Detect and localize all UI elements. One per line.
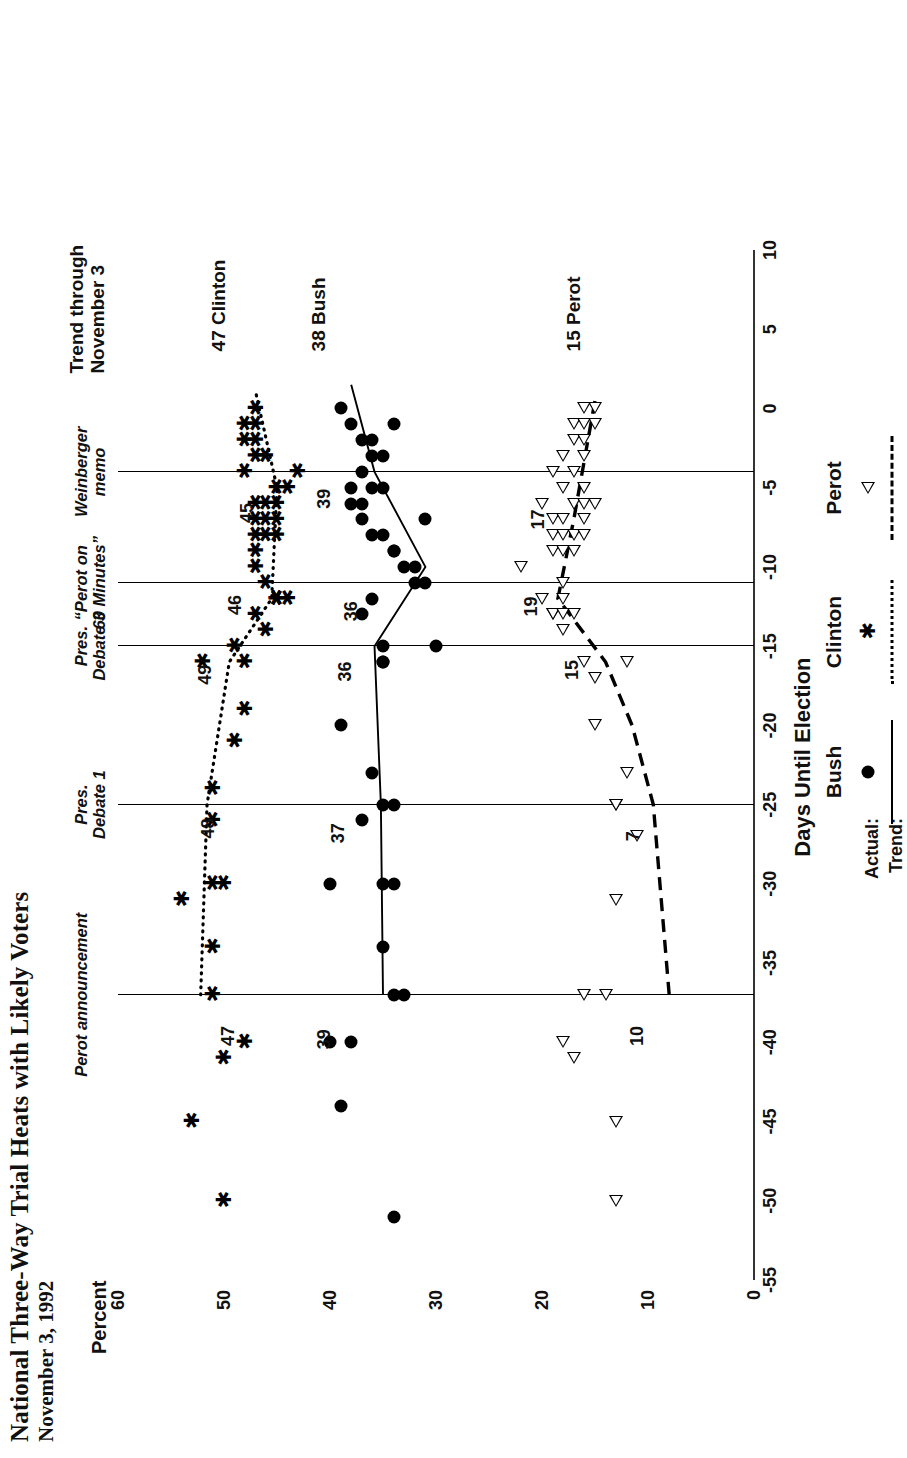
x-tick-7: -20	[760, 712, 781, 738]
data-point-bush	[355, 497, 368, 510]
value-annotation-5: 37	[328, 823, 349, 843]
data-point-bush	[377, 941, 390, 954]
legend-open-triangle-icon	[861, 482, 875, 494]
data-point-bush	[377, 656, 390, 669]
data-point-clinton: ✱	[248, 544, 263, 559]
data-point-bush	[345, 418, 358, 431]
data-point-perot	[620, 656, 634, 668]
data-point-clinton: ✱	[259, 575, 274, 590]
data-point-perot	[567, 545, 581, 557]
data-point-clinton: ✱	[206, 987, 221, 1002]
data-point-perot	[556, 593, 570, 605]
x-tick-11: 0	[760, 403, 781, 413]
data-point-clinton: ✱	[270, 496, 285, 511]
data-point-perot	[609, 799, 623, 811]
data-point-perot	[556, 450, 570, 462]
data-point-perot	[609, 1195, 623, 1207]
data-point-perot	[577, 434, 591, 446]
legend: Actual: Trend: BushClinton✱Perot	[822, 348, 900, 818]
data-point-clinton: ✱	[270, 480, 285, 495]
plot-area: ✱✱✱✱✱✱✱✱✱✱✱✱✱✱✱✱✱✱✱✱✱✱✱✱✱✱✱✱✱✱✱✱✱✱✱✱✱✱✱✱…	[118, 250, 754, 1280]
value-annotation-10: 7	[623, 831, 644, 841]
data-point-bush	[366, 592, 379, 605]
data-point-clinton: ✱	[238, 655, 253, 670]
data-point-clinton: ✱	[270, 528, 285, 543]
data-point-bush	[345, 1036, 358, 1049]
x-tick-4: -35	[760, 950, 781, 976]
data-point-perot	[588, 498, 602, 510]
data-point-bush	[355, 465, 368, 478]
data-point-bush	[387, 877, 400, 890]
data-point-bush	[408, 576, 421, 589]
legend-row-trend-label: Trend:	[886, 818, 907, 904]
data-point-bush	[334, 402, 347, 415]
value-annotation-11: 10	[627, 1026, 648, 1046]
data-point-clinton: ✱	[206, 940, 221, 955]
value-annotation-14: 17	[527, 509, 548, 529]
data-point-bush	[366, 529, 379, 542]
legend-label-clinton: Clinton	[822, 596, 846, 668]
data-point-perot	[556, 577, 570, 589]
data-point-clinton: ✱	[217, 1051, 232, 1066]
value-annotation-1: 49	[194, 665, 215, 685]
y-tick-5: 50	[214, 1290, 235, 1310]
data-point-perot	[620, 767, 634, 779]
data-point-perot	[567, 608, 581, 620]
event-line-1	[118, 804, 754, 805]
data-point-clinton: ✱	[248, 607, 263, 622]
y-tick-3: 30	[426, 1290, 447, 1310]
data-point-clinton: ✱	[174, 892, 189, 907]
x-tick-6: -25	[760, 792, 781, 818]
data-point-clinton: ✱	[206, 781, 221, 796]
data-point-clinton: ✱	[227, 639, 242, 654]
data-point-clinton: ✱	[238, 417, 253, 432]
data-point-clinton: ✱	[238, 1035, 253, 1050]
data-point-perot	[577, 482, 591, 494]
data-point-bush	[377, 640, 390, 653]
data-point-perot	[556, 1036, 570, 1048]
data-point-bush	[366, 450, 379, 463]
data-point-perot	[556, 513, 570, 525]
event-label-3: “Perot on 60 Minutes”	[72, 536, 109, 630]
legend-label-bush: Bush	[822, 746, 846, 799]
data-point-clinton: ✱	[185, 1114, 200, 1129]
trend-caption: Trend through November 3	[66, 245, 109, 374]
x-tick-13: 10	[760, 240, 781, 260]
data-point-clinton: ✱	[291, 464, 306, 479]
event-label-0: Perot announcement	[72, 913, 90, 1077]
page-title: National Three-Way Trial Heats with Like…	[6, 892, 33, 1442]
data-point-bush	[355, 814, 368, 827]
data-point-bush	[377, 798, 390, 811]
data-point-clinton: ✱	[238, 702, 253, 717]
value-annotation-2: 46	[224, 595, 245, 615]
data-point-perot	[588, 672, 602, 684]
data-point-perot	[535, 498, 549, 510]
x-tick-9: -10	[760, 554, 781, 580]
data-point-bush	[334, 719, 347, 732]
figure: National Three-Way Trial Heats with Like…	[0, 0, 907, 1458]
data-point-perot	[567, 466, 581, 478]
legend-line-bush	[891, 720, 893, 824]
y-axis-title: Percent	[88, 1281, 111, 1354]
value-annotation-4: 47	[218, 1026, 239, 1046]
rotated-figure-canvas: National Three-Way Trial Heats with Like…	[0, 0, 907, 1458]
data-point-bush	[366, 766, 379, 779]
data-point-perot	[599, 989, 613, 1001]
data-point-clinton: ✱	[259, 449, 274, 464]
trend-lines	[118, 250, 754, 1280]
data-point-perot	[577, 989, 591, 1001]
data-point-clinton: ✱	[248, 401, 263, 416]
data-point-bush	[387, 418, 400, 431]
y-axis-ticks: 0102030405060	[118, 1284, 754, 1348]
x-tick-1: -50	[760, 1188, 781, 1214]
value-annotation-8: 39	[313, 489, 334, 509]
x-tick-12: 5	[760, 324, 781, 334]
data-point-bush	[345, 481, 358, 494]
data-point-bush	[387, 1210, 400, 1223]
value-annotation-0: 48	[198, 818, 219, 838]
data-point-bush	[334, 1099, 347, 1112]
data-point-bush	[398, 560, 411, 573]
data-point-clinton: ✱	[238, 433, 253, 448]
x-tick-8: -15	[760, 633, 781, 659]
data-point-clinton: ✱	[217, 1193, 232, 1208]
